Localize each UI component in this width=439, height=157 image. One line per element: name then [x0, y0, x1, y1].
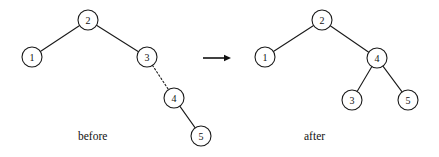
tree-node-before-1: 1	[22, 47, 42, 67]
node-label: 2	[320, 15, 325, 26]
tree-node-after-1: 1	[255, 47, 275, 67]
tree-edge-a4-a5	[383, 66, 402, 92]
tree-edge-a2-a4	[330, 26, 369, 53]
after-caption: after	[304, 130, 325, 143]
diagram-canvas: 21345 21435	[0, 0, 439, 157]
node-label: 2	[86, 15, 91, 26]
tree-edge-n3-n4	[153, 65, 169, 89]
arrow-head	[224, 55, 231, 61]
tree-node-after-3: 3	[342, 90, 362, 110]
tree-node-after-5: 5	[398, 90, 418, 110]
tree-node-before-3: 3	[137, 47, 157, 67]
node-label: 4	[172, 93, 177, 104]
tree-node-after-2: 2	[312, 10, 332, 30]
tree-node-after-4: 4	[367, 48, 387, 68]
tree-edge-a4-a3	[357, 67, 372, 92]
tree-edge-n2-n3	[96, 25, 138, 51]
node-label: 3	[145, 52, 150, 63]
node-label: 3	[350, 95, 355, 106]
node-label: 1	[263, 52, 268, 63]
node-label: 5	[199, 131, 204, 142]
tree-node-before-2: 2	[78, 10, 98, 30]
transition-arrow-icon	[203, 55, 231, 61]
before-tree-nodes: 21345	[22, 10, 211, 146]
tree-edge-n4-n5	[180, 106, 195, 128]
before-caption: before	[78, 130, 107, 143]
after-tree-nodes: 21435	[255, 10, 418, 110]
node-label: 4	[375, 53, 380, 64]
node-label: 5	[406, 95, 411, 106]
before-tree-edges	[40, 25, 195, 128]
node-label: 1	[30, 52, 35, 63]
tree-node-before-5: 5	[191, 126, 211, 146]
tree-node-before-4: 4	[164, 88, 184, 108]
tree-rotation-figure: 21345 21435 before after	[0, 0, 439, 157]
tree-edge-n2-n1	[40, 26, 79, 52]
tree-edge-a2-a1	[273, 25, 313, 51]
